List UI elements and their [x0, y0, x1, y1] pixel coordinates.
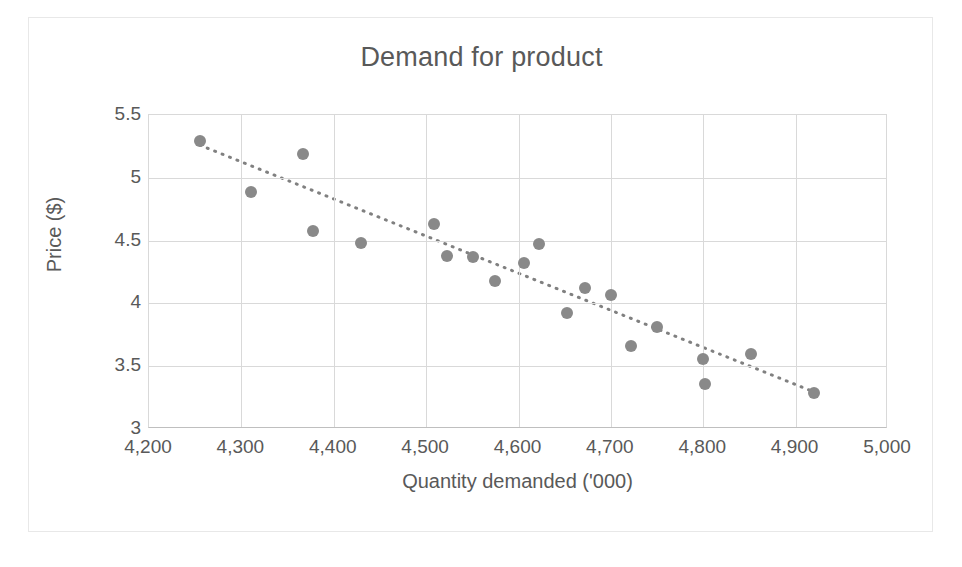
x-axis-tick-label: 4,800 [678, 436, 726, 458]
data-point[interactable] [561, 307, 573, 319]
data-point[interactable] [745, 348, 757, 360]
data-point[interactable] [355, 237, 367, 249]
gridline-horizontal [149, 178, 886, 179]
data-point[interactable] [625, 340, 637, 352]
data-point[interactable] [579, 282, 591, 294]
gridline-horizontal [149, 241, 886, 242]
y-axis-tick-label: 3.5 [115, 354, 141, 376]
chart-container: Demand for product Price ($) 33.544.555.… [28, 17, 933, 532]
gridline-horizontal [149, 303, 886, 304]
x-axis-tick-label: 4,200 [124, 436, 172, 458]
data-point[interactable] [533, 238, 545, 250]
data-point[interactable] [194, 135, 206, 147]
x-axis-tick-label: 5,000 [863, 436, 911, 458]
data-point[interactable] [605, 289, 617, 301]
data-point[interactable] [697, 353, 709, 365]
gridline-vertical [241, 115, 242, 427]
gridline-horizontal [149, 366, 886, 367]
gridline-vertical [334, 115, 335, 427]
x-axis-title: Quantity demanded ('000) [148, 470, 887, 493]
data-point[interactable] [307, 225, 319, 237]
x-axis-tick-label: 4,500 [401, 436, 449, 458]
x-axis-tick-label: 4,600 [494, 436, 542, 458]
data-point[interactable] [467, 251, 479, 263]
gridline-vertical [426, 115, 427, 427]
gridline-vertical [519, 115, 520, 427]
gridline-vertical [796, 115, 797, 427]
y-axis-tick-label: 5.5 [115, 103, 141, 125]
x-axis-tick-labels: 4,2004,3004,4004,5004,6004,7004,8004,900… [148, 436, 887, 464]
plot-area [148, 114, 887, 428]
chart-title: Demand for product [29, 42, 934, 73]
y-axis-title: Price ($) [43, 155, 66, 315]
data-point[interactable] [808, 387, 820, 399]
data-point[interactable] [518, 257, 530, 269]
data-point[interactable] [699, 378, 711, 390]
y-axis-tick-label: 5 [130, 166, 141, 188]
data-point[interactable] [245, 186, 257, 198]
x-axis-tick-label: 4,700 [586, 436, 634, 458]
x-axis-tick-label: 4,400 [309, 436, 357, 458]
data-point[interactable] [489, 275, 501, 287]
x-axis-tick-label: 4,300 [217, 436, 265, 458]
y-axis-tick-label: 4 [130, 291, 141, 313]
y-axis-tick-label: 4.5 [115, 229, 141, 251]
x-axis-tick-label: 4,900 [771, 436, 819, 458]
y-axis-tick-labels: 33.544.555.5 [69, 114, 141, 428]
data-point[interactable] [441, 250, 453, 262]
gridline-vertical [611, 115, 612, 427]
data-point[interactable] [651, 321, 663, 333]
data-point[interactable] [297, 148, 309, 160]
data-point[interactable] [428, 218, 440, 230]
